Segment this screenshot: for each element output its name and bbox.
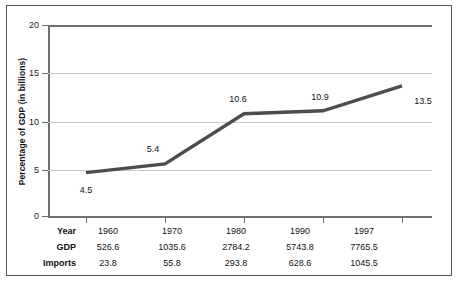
cell-imports-1997: 1045.5: [332, 256, 396, 272]
point-label-1980: 10.6: [229, 95, 247, 104]
cell-gdp-1960: 526.6: [76, 240, 140, 256]
point-label-1960: 4.5: [80, 186, 93, 195]
y-tick-label-20: 20: [29, 21, 39, 30]
point-label-1970: 5.4: [147, 145, 160, 154]
cell-imports-1980: 293.8: [204, 256, 268, 272]
row-label-gdp: GDP: [14, 240, 76, 256]
point-label-1990: 10.9: [311, 93, 329, 102]
row-label-year: Year: [14, 224, 76, 240]
x-tick-1980: [244, 218, 245, 223]
table-row-year: Year 1960 1970 1980 1990 1997: [14, 224, 444, 240]
table-pad: [396, 240, 444, 256]
x-tick-1960: [86, 218, 87, 223]
series-line: [48, 25, 432, 218]
y-axis-title: Percentage of GDP (in billions): [14, 25, 30, 218]
cell-year-1997: 1997: [332, 224, 396, 240]
y-tick-label-5: 5: [34, 165, 39, 174]
cell-gdp-1990: 5743.8: [268, 240, 332, 256]
cell-gdp-1970: 1035.6: [140, 240, 204, 256]
table-row-gdp: GDP 526.6 1035.6 2784.2 5743.8 7765.5: [14, 240, 444, 256]
cell-year-1970: 1970: [140, 224, 204, 240]
y-tick-label-0: 0: [34, 212, 39, 221]
x-tick-1997: [402, 218, 403, 223]
data-table: Year 1960 1970 1980 1990 1997 GDP 526.6 …: [14, 224, 444, 272]
cell-imports-1960: 23.8: [76, 256, 140, 272]
cell-gdp-1997: 7765.5: [332, 240, 396, 256]
y-tick-label-15: 15: [29, 69, 39, 78]
cell-imports-1990: 628.6: [268, 256, 332, 272]
cell-year-1990: 1990: [268, 224, 332, 240]
point-label-1997: 13.5: [414, 97, 432, 106]
table-pad: [396, 256, 444, 272]
cell-gdp-1980: 2784.2: [204, 240, 268, 256]
x-tick-1990: [323, 218, 324, 223]
chart-figure: Percentage of GDP (in billions) 20 15 10…: [0, 0, 459, 284]
cell-imports-1970: 55.8: [140, 256, 204, 272]
cell-year-1980: 1980: [204, 224, 268, 240]
row-label-imports: Imports: [14, 256, 76, 272]
table-pad: [396, 224, 444, 240]
x-tick-1970: [165, 218, 166, 223]
table-row-imports: Imports 23.8 55.8 293.8 628.6 1045.5: [14, 256, 444, 272]
cell-year-1960: 1960: [76, 224, 140, 240]
y-tick-label-10: 10: [29, 117, 39, 126]
plot-area: 20 15 10 5 0 4.5 5.4 10.6 10.9 13.5: [48, 25, 432, 218]
